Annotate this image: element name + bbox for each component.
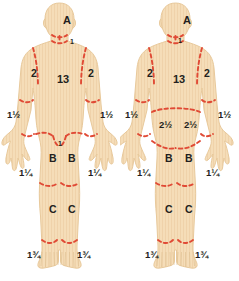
- region-label-posterior-shoulder-right: 2: [204, 68, 210, 79]
- region-label-anterior-leg-left: C: [49, 204, 57, 215]
- region-label-posterior-foot-right: 1¾: [195, 250, 208, 260]
- region-label-posterior-leg-left: C: [165, 204, 173, 215]
- region-label-anterior-foot-left: 1¾: [27, 250, 40, 260]
- region-label-anterior-shoulder-left: 2: [31, 68, 37, 79]
- region-label-posterior-forearm-left: 1½: [125, 110, 138, 120]
- body-figure-posterior: A122131½1½2½2½BB1¼1¼CC1¾1¾: [120, 0, 239, 281]
- region-label-posterior-hand-left: 1¼: [137, 168, 150, 178]
- region-label-anterior-shoulder-right: 2: [88, 68, 94, 79]
- region-label-posterior-thigh-left: B: [165, 153, 173, 164]
- region-label-anterior-leg-right: C: [68, 204, 76, 215]
- region-label-anterior-forearm-left: 1½: [7, 110, 20, 120]
- region-label-posterior-shoulder-left: 2: [147, 68, 153, 79]
- region-label-anterior-trunk: 13: [57, 74, 69, 85]
- region-label-posterior-head: A: [183, 15, 191, 26]
- region-label-posterior-foot-left: 1¾: [145, 250, 158, 260]
- region-label-posterior-forearm-right: 1½: [218, 110, 231, 120]
- region-label-anterior-thigh-left: B: [49, 153, 57, 164]
- region-label-posterior-leg-right: C: [185, 204, 193, 215]
- region-label-anterior-foot-right: 1¾: [77, 250, 90, 260]
- region-label-anterior-genitalia: 1: [58, 140, 62, 147]
- region-label-posterior-thigh-right: B: [185, 153, 193, 164]
- lund-browder-chart: A122131½1½1BB1¼1¼CC1¾1¾: [0, 0, 239, 281]
- body-figure-anterior: A122131½1½1BB1¼1¼CC1¾1¾: [0, 0, 119, 281]
- region-label-anterior-neck: 1: [70, 38, 74, 45]
- region-label-posterior-buttock-left: 2½: [159, 120, 172, 130]
- region-label-anterior-thigh-right: B: [68, 153, 76, 164]
- region-label-posterior-hand-right: 1¼: [206, 168, 219, 178]
- region-label-posterior-trunk: 13: [173, 74, 185, 85]
- region-label-posterior-neck: 1: [178, 37, 182, 44]
- region-label-anterior-head: A: [63, 15, 71, 26]
- region-label-anterior-hand-left: 1¼: [19, 168, 32, 178]
- region-label-posterior-buttock-right: 2½: [184, 120, 197, 130]
- region-label-anterior-forearm-right: 1½: [100, 110, 113, 120]
- region-label-anterior-hand-right: 1¼: [88, 168, 101, 178]
